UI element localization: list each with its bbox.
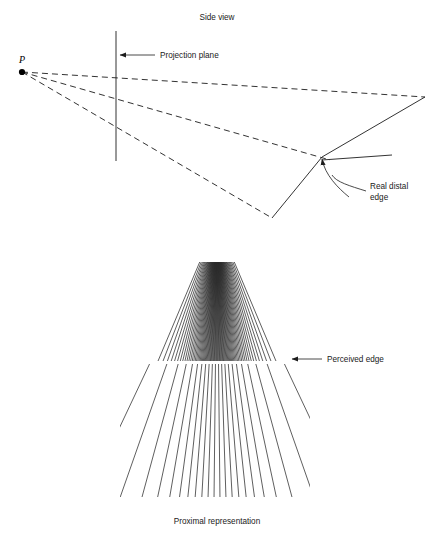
texture-line [195,364,206,497]
figure-root: Side view Projection plane P Real distal… [0,0,435,537]
perceived-edge-label: Perceived edge [327,355,384,364]
texture-line [219,364,220,497]
texture-line [87,364,150,497]
sparse-texture-gradient [87,364,347,497]
texture-line [225,364,232,497]
texture-line [214,364,215,497]
texture-line [208,364,212,497]
texture-line [222,364,226,497]
texture-line [170,364,193,497]
proximal-representation-panel: Perceived edge Proximal representation [0,0,435,537]
texture-line [228,364,239,497]
texture-line [284,364,347,497]
texture-line [241,364,264,497]
dense-texture-gradient [158,260,276,361]
proximal-representation-caption: Proximal representation [174,517,261,526]
texture-line [202,364,209,497]
